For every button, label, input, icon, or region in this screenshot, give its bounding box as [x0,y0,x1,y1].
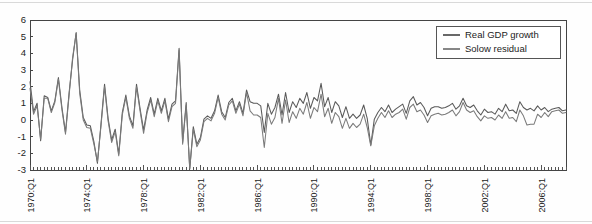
x-tick-label: 1998:Q1 [423,178,433,213]
y-tick-label: -2 [18,147,26,158]
x-tick-label: 2006:Q1 [537,178,547,213]
x-tick-label: 1994:Q1 [366,178,376,213]
chart-figure: -3-2-101234561970:Q11974:Q11978:Q11982:Q… [0,0,592,224]
y-tick-label: 0 [21,114,26,125]
y-tick-label: 5 [21,31,26,42]
y-tick-label: 2 [21,81,26,92]
y-tick-label: 3 [21,64,26,75]
x-tick-label: 1970:Q1 [26,178,36,213]
y-tick-label: 6 [21,14,26,25]
y-tick-label: -1 [18,131,26,142]
x-tick-label: 1978:Q1 [139,178,149,213]
y-tick-label: 4 [21,47,26,58]
x-tick-label: 1990:Q1 [309,178,319,213]
x-tick-label: 2002:Q1 [480,178,490,213]
x-tick-label: 1982:Q1 [196,178,206,213]
x-tick-label: 1986:Q1 [253,178,263,213]
legend-label-real-gdp-growth: Real GDP growth [465,29,539,40]
legend-label-solow-residual: Solow residual [465,43,527,54]
x-tick-label: 1974:Q1 [82,178,92,213]
line-chart: -3-2-101234561970:Q11974:Q11978:Q11982:Q… [0,0,592,224]
y-tick-label: 1 [21,97,26,108]
y-tick-label: -3 [18,164,26,175]
